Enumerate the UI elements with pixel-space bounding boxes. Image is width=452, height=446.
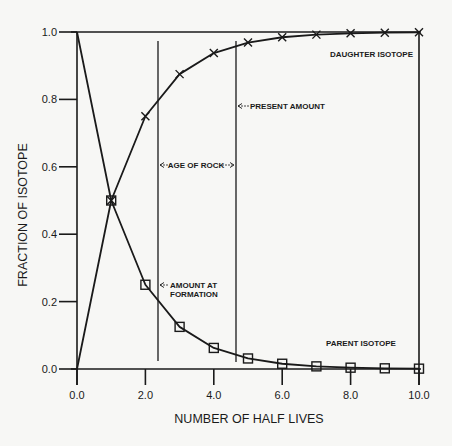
y-axis-label: FRACTION OF ISOTOPE [16,143,30,287]
chart-canvas: 0.00.20.40.60.81.00.02.04.06.08.010.0 FR… [0,0,452,446]
y-tick-label: 0.2 [42,296,57,308]
x-tick-label: 8.0 [343,389,358,401]
x-tick-label: 0.0 [69,389,84,401]
x-marker [176,70,184,78]
annotation-age-of-rock: AGE OF ROCK [168,161,225,170]
parent-isotope-line [77,32,419,369]
annotation-formation: FORMATION [170,290,218,299]
decay-chart: 0.00.20.40.60.81.00.02.04.06.08.010.0 FR… [0,0,452,446]
x-tick-label: 10.0 [408,389,429,401]
y-tick-label: 0.6 [42,161,57,173]
x-tick-label: 2.0 [138,389,153,401]
x-axis-label: NUMBER OF HALF LIVES [174,412,323,426]
annotation-present-amount: PRESENT AMOUNT [250,102,325,111]
x-marker [141,112,149,120]
y-tick-label: 1.0 [42,26,57,38]
y-tick-label: 0.0 [42,363,57,375]
daughter-isotope-line [77,32,419,369]
annotation-amount-at: AMOUNT AT [170,281,217,290]
series-label-daughter: DAUGHTER ISOTOPE [330,50,414,59]
y-tick-label: 0.8 [42,93,57,105]
series-label-parent: PARENT ISOTOPE [326,339,397,348]
data-series [77,28,424,373]
x-tick-label: 4.0 [206,389,221,401]
y-tick-label: 0.4 [42,228,57,240]
x-tick-label: 6.0 [275,389,290,401]
